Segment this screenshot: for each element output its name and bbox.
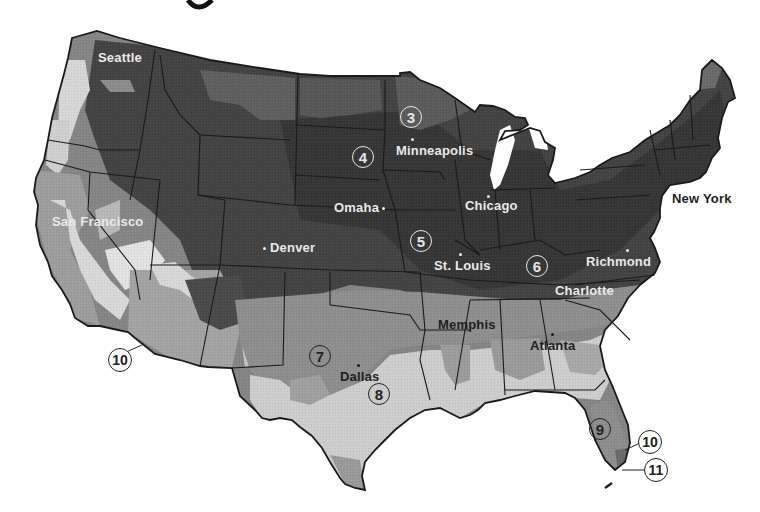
city-label-chicago: Chicago xyxy=(465,198,518,213)
florida-keys xyxy=(605,483,612,488)
city-label-denver: Denver xyxy=(270,240,315,255)
zone-label-10-florida: 10 xyxy=(638,430,662,454)
zone-label-6: 6 xyxy=(526,255,548,277)
city-label-richmond: Richmond xyxy=(586,254,651,269)
city-label-new-york: New York xyxy=(672,191,732,206)
zone-label-3: 3 xyxy=(400,106,422,128)
city-dot-denver xyxy=(263,247,266,250)
city-dot-minneapolis xyxy=(411,138,414,141)
title-fragment xyxy=(188,0,212,7)
city-label-dallas: Dallas xyxy=(340,369,380,384)
zone-label-9: 9 xyxy=(589,418,611,440)
city-label-st-louis: St. Louis xyxy=(434,258,491,273)
city-label-san-francisco: San Francisco xyxy=(52,214,143,229)
city-dot-atlanta xyxy=(551,333,554,336)
city-label-minneapolis: Minneapolis xyxy=(396,143,473,158)
city-label-charlotte: Charlotte xyxy=(555,283,614,298)
city-dot-richmond xyxy=(626,249,629,252)
hardiness-zone-map: Seattle San Francisco Denver Omaha Minne… xyxy=(0,0,760,512)
zone-label-5: 5 xyxy=(410,230,432,252)
city-label-omaha: Omaha xyxy=(334,200,379,215)
city-label-memphis: Memphis xyxy=(438,317,496,332)
zone-label-8: 8 xyxy=(368,383,390,405)
city-label-atlanta: Atlanta xyxy=(530,338,575,353)
zone-label-10-arizona: 10 xyxy=(108,348,132,372)
city-dot-omaha xyxy=(382,207,385,210)
zone-label-7: 7 xyxy=(309,345,331,367)
city-dot-dallas xyxy=(357,364,360,367)
city-dot-st-louis xyxy=(459,253,462,256)
city-label-seattle: Seattle xyxy=(98,50,142,65)
zone-label-11-florida-keys: 11 xyxy=(644,458,668,482)
zone-label-4: 4 xyxy=(352,146,374,168)
